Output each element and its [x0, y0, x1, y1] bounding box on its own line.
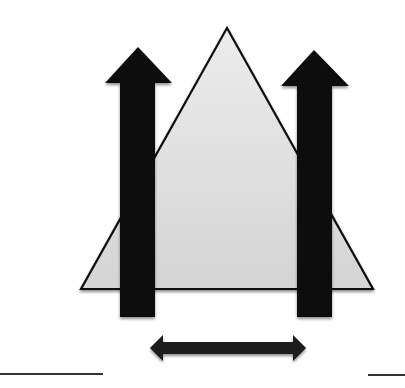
double-headed-arrow-icon [150, 335, 306, 361]
diagram-canvas [0, 0, 405, 388]
